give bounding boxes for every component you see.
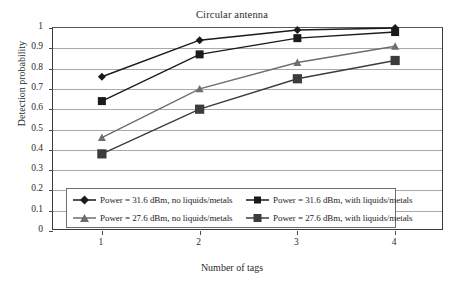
legend-label: Power = 27.6 dBm, no liquids/metals [100,213,233,223]
legend-label: Power = 27.6 dBm, with liquids/metals [273,213,412,223]
chart-title: Circular antenna [0,9,464,20]
legend-row: Power = 31.6 dBm, no liquids/metals Powe… [67,191,395,209]
legend-item-31-6-no-liquids[interactable]: Power = 31.6 dBm, no liquids/metals [67,194,245,206]
series-line [102,60,395,153]
triangle-data-point [98,134,106,141]
series-line [102,32,395,101]
legend-label: Power = 31.6 dBm, with liquids/metals [273,195,412,205]
legend-label: Power = 31.6 dBm, no liquids/metals [100,195,233,205]
x-axis-tick [395,231,396,235]
square-data-point [196,50,204,58]
x-axis-title: Number of tags [0,262,464,273]
y-axis-tick-label: 0.1 [0,204,43,214]
diamond-data-point [293,26,301,34]
square-marker-icon [245,212,270,224]
series-3 [98,42,399,141]
y-axis-tick-label: 0.7 [0,82,43,92]
x-axis-tick-label: 2 [184,237,214,247]
x-axis-tick-label: 3 [281,237,311,247]
diamond-data-point [98,73,106,81]
y-axis-tick-label: 0.3 [0,163,43,173]
square-data-point [98,97,106,105]
y-axis-tick-label: 0.4 [0,143,43,153]
y-axis-tick [49,231,53,232]
y-axis-tick-label: 1 [0,21,43,31]
square-data-point [391,28,399,36]
square-data-point [391,56,400,65]
square-data-point [293,74,302,83]
triangle-data-point [391,42,399,49]
chart-legend: Power = 31.6 dBm, no liquids/metals Powe… [66,188,396,228]
legend-item-27-6-no-liquids[interactable]: Power = 27.6 dBm, no liquids/metals [67,212,245,224]
triangle-marker-icon [72,212,97,224]
square-data-point [195,105,204,114]
x-axis-tick-label: 4 [379,237,409,247]
y-axis-tick-label: 0.8 [0,62,43,72]
y-axis-tick-label: 0.5 [0,123,43,133]
legend-item-31-6-with-liquids[interactable]: Power = 31.6 dBm, with liquids/metals [245,194,395,206]
x-axis-tick [200,231,201,235]
square-data-point [97,149,106,158]
y-axis-tick-label: 0.2 [0,183,43,193]
x-axis-tick [102,231,103,235]
square-marker-icon [245,194,270,206]
square-data-point [293,34,301,42]
legend-item-27-6-with-liquids[interactable]: Power = 27.6 dBm, with liquids/metals [245,212,395,224]
y-axis-tick-label: 0 [0,224,43,234]
y-axis-tick-label: 0.9 [0,41,43,51]
legend-row: Power = 27.6 dBm, no liquids/metals Powe… [67,209,395,227]
chart-figure: Circular antenna Detection probability N… [0,0,464,282]
x-axis-tick-label: 1 [86,237,116,247]
series-1 [98,24,399,81]
y-axis-tick-label: 0.6 [0,102,43,112]
diamond-marker-icon [72,194,97,206]
x-axis-tick [297,231,298,235]
diamond-data-point [196,36,204,44]
series-4 [97,56,399,159]
